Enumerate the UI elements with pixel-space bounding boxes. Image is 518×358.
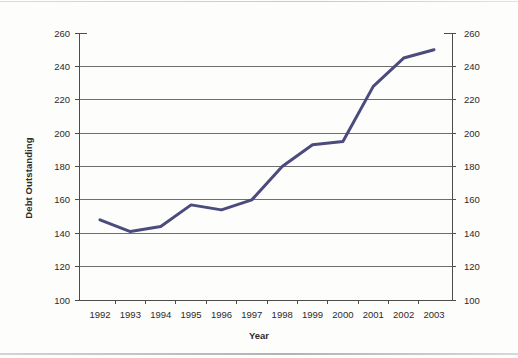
y-axis-left-ticks: 100120140160180200220240260: [54, 28, 79, 306]
x-axis-label-1997: 1997: [241, 309, 262, 320]
y-axis-left-label: 200: [54, 128, 70, 139]
x-axis-label-2003: 2003: [423, 309, 444, 320]
x-axis-label-2002: 2002: [393, 309, 414, 320]
y-axis-right-label: 220: [464, 94, 480, 105]
x-axis-label-2001: 2001: [363, 309, 384, 320]
y-axis-right-label: 140: [464, 228, 480, 239]
y-axis-left-label: 100: [54, 295, 70, 306]
y-axis-right-label: 100: [464, 295, 480, 306]
x-axis-label-1992: 1992: [89, 309, 110, 320]
line-chart-figure: 100120140160180200220240260 100120140160…: [0, 0, 518, 358]
y-axis-title: Debt Outstanding: [22, 0, 36, 108]
y-axis-left-label: 220: [54, 94, 70, 105]
x-axis-title: Year: [0, 330, 518, 341]
y-axis-left-label: 240: [54, 61, 70, 72]
x-axis-label-1993: 1993: [120, 309, 141, 320]
y-axis-left-label: 140: [54, 228, 70, 239]
data-series-line: [100, 50, 434, 232]
x-axis-label-1994: 1994: [150, 309, 171, 320]
x-axis-label-1995: 1995: [181, 309, 202, 320]
y-axis-right-label: 180: [464, 161, 480, 172]
series-line-debt-outstanding: [100, 50, 434, 232]
chart-plot-area: 100120140160180200220240260 100120140160…: [0, 0, 518, 358]
x-axis-label-1996: 1996: [211, 309, 232, 320]
y-axis-left-label: 160: [54, 194, 70, 205]
x-axis-label-1998: 1998: [272, 309, 293, 320]
y-axis-left-label: 260: [54, 28, 70, 39]
x-axis-label-2000: 2000: [332, 309, 353, 320]
y-axis-right-label: 120: [464, 261, 480, 272]
y-axis-right-label: 260: [464, 28, 480, 39]
x-axis-label-1999: 1999: [302, 309, 323, 320]
y-axis-left-label: 180: [54, 161, 70, 172]
y-axis-left-label: 120: [54, 261, 70, 272]
y-axis-right-ticks: 100120140160180200220240260: [452, 28, 480, 306]
x-axis-ticks: 1992199319941995199619971998199920002001…: [89, 300, 444, 320]
y-axis-title-text: Debt Outstanding: [22, 108, 36, 248]
y-axis-right-label: 240: [464, 61, 480, 72]
y-axis-right-label: 160: [464, 194, 480, 205]
y-axis-right-label: 200: [464, 128, 480, 139]
